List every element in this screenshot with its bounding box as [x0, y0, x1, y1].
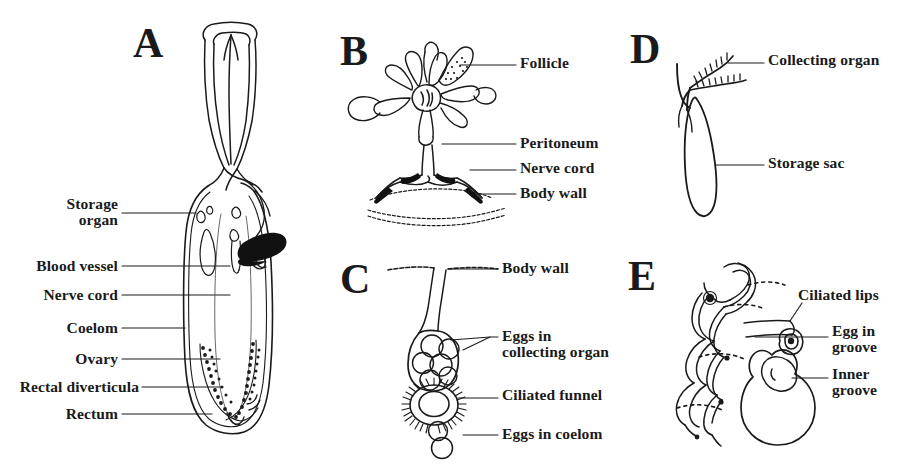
inner-groove — [762, 357, 797, 391]
label-follicle: Follicle — [520, 55, 569, 71]
panel-letter-a: A — [133, 22, 163, 64]
panel-d: D Collecting organ Storage sac — [620, 10, 924, 240]
ovary-beaded-chain — [201, 342, 260, 419]
label-collecting-organ: Collecting organ — [768, 52, 879, 68]
body-wall-inner — [189, 192, 267, 427]
body-wall-band — [368, 208, 506, 226]
label-coelom: Coelom — [38, 320, 118, 336]
label-egg-in-groove: Egg in groove — [832, 323, 877, 355]
egg-sac — [741, 350, 815, 445]
organ-junction — [677, 64, 690, 110]
label-storage-sac: Storage sac — [768, 155, 844, 171]
collecting-duct-neck — [419, 268, 446, 333]
label-body-wall: Body wall — [502, 260, 569, 276]
dark-band — [238, 233, 287, 266]
label-peritoneum: Peritoneum — [520, 135, 598, 151]
egg-in-groove-core — [788, 338, 794, 344]
panel-letter-e: E — [628, 255, 656, 297]
panel-a: A Storage organ Blood vessel Nerve cord … — [0, 0, 300, 468]
label-ciliated-funnel: Ciliated funnel — [502, 387, 602, 403]
panel-b: B Follicle Peritoneum Nerve cord Body wa… — [320, 10, 620, 230]
panel-c: C Body wall Eggs in collecting organ Cil… — [320, 245, 620, 468]
proboscis-outline — [203, 23, 257, 170]
collecting-organ-arms — [690, 56, 746, 90]
label-body-wall: Body wall — [520, 185, 587, 201]
label-nerve-cord: Nerve cord — [18, 287, 118, 303]
follicle-speckles — [445, 57, 468, 80]
label-eggs-in-collecting-organ: Eggs in collecting organ — [502, 328, 609, 360]
label-ovary: Ovary — [48, 351, 118, 367]
label-rectum: Rectum — [38, 406, 118, 422]
panel-c-leader-lines — [448, 269, 498, 435]
panel-b-leader-lines — [442, 65, 516, 194]
eggs-in-coelom — [429, 422, 453, 459]
label-nerve-cord: Nerve cord — [520, 160, 595, 176]
panel-d-drawing — [620, 10, 924, 240]
peritoneum-arch — [376, 175, 482, 198]
label-inner-groove: Inner groove — [832, 366, 877, 398]
panel-letter-b: B — [340, 30, 368, 72]
panel-letter-d: D — [630, 28, 660, 70]
label-eggs-in-coelom: Eggs in coelom — [502, 426, 602, 442]
label-ciliated-lips: Ciliated lips — [798, 287, 879, 303]
label-storage-organ: Storage organ — [18, 196, 118, 228]
panel-a-drawing — [0, 0, 300, 468]
anatomy-figure-plate: A Storage organ Blood vessel Nerve cord … — [0, 0, 924, 468]
spiral-hidden-edges — [677, 282, 785, 410]
label-blood-vessel: Blood vessel — [8, 258, 118, 274]
panel-e: E Ciliated lips Egg in groove Inner groo… — [620, 245, 924, 468]
follicle-hub — [412, 85, 441, 111]
storage-organs — [197, 206, 241, 275]
panel-e-drawing — [620, 245, 924, 468]
rectal-diverticula — [200, 340, 258, 421]
label-rectal-diverticula: Rectal diverticula — [0, 379, 139, 395]
panel-letter-c: C — [340, 258, 370, 300]
follicle-stalk — [422, 145, 434, 175]
